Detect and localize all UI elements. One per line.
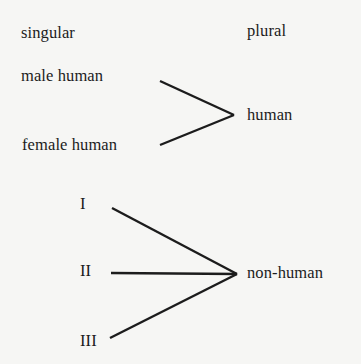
connector-class-I [112,208,237,274]
connector-female-human [160,115,234,145]
connector-class-III [110,274,237,338]
connector-lines [0,0,361,364]
connector-class-II [111,273,237,274]
connector-male-human [160,81,234,115]
